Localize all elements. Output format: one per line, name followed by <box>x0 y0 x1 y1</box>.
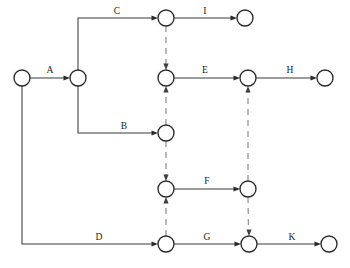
edge-d-arrowhead <box>152 241 159 246</box>
dummy-b-to-f[interactable] <box>163 141 168 181</box>
edge-h-arrowhead <box>311 75 318 80</box>
edge-b-line <box>78 86 156 133</box>
node-after-e[interactable] <box>240 70 256 86</box>
dummy-f-to-g-line <box>248 197 249 234</box>
node-after-c[interactable] <box>158 10 174 26</box>
edge-f[interactable] <box>174 186 240 191</box>
edge-h[interactable] <box>256 75 317 80</box>
edge-i-arrowhead <box>231 15 238 20</box>
dummy-f-to-e-arrowhead <box>245 86 250 93</box>
network-diagram: A C I E H B F D G K <box>0 0 350 268</box>
edge-label-a: A <box>46 65 53 75</box>
node-after-a[interactable] <box>70 70 86 86</box>
edge-e[interactable] <box>174 75 240 80</box>
dummy-d-to-f[interactable] <box>163 197 168 236</box>
dummy-b-to-e[interactable] <box>163 86 168 125</box>
network-canvas: A C I E H B F D G K <box>0 0 350 268</box>
edge-k-arrowhead <box>315 241 322 246</box>
dummy-c-to-e-arrowhead <box>163 64 168 71</box>
edge-g-arrowhead <box>235 241 242 246</box>
edge-d-line <box>22 86 156 244</box>
edge-label-c: C <box>114 6 121 16</box>
edge-f-arrowhead <box>234 186 241 191</box>
edge-b-arrowhead <box>152 130 159 135</box>
edge-c-arrowhead <box>152 15 159 20</box>
dummy-f-to-g[interactable] <box>246 197 251 236</box>
dummy-b-to-f-arrowhead <box>163 175 168 182</box>
node-after-g[interactable] <box>241 236 257 252</box>
dummy-c-to-e[interactable] <box>163 26 168 70</box>
node-after-f[interactable] <box>240 181 256 197</box>
node-start-of-e[interactable] <box>158 70 174 86</box>
node-after-i[interactable] <box>237 10 253 26</box>
dummy-b-to-e-arrowhead <box>163 86 168 93</box>
node-after-k[interactable] <box>321 236 337 252</box>
node-after-d[interactable] <box>158 236 174 252</box>
edge-b[interactable] <box>78 86 158 136</box>
start-node[interactable] <box>14 70 30 86</box>
edge-d[interactable] <box>22 86 158 247</box>
edge-a[interactable] <box>30 75 70 80</box>
node-after-h[interactable] <box>317 70 333 86</box>
edge-c-line <box>78 18 156 70</box>
node-after-b[interactable] <box>158 125 174 141</box>
edge-label-k: K <box>288 232 295 242</box>
dummy-d-to-f-arrowhead <box>163 197 168 204</box>
edge-label-d: D <box>95 232 102 242</box>
edge-label-e: E <box>202 65 208 75</box>
edge-label-h: H <box>286 65 293 75</box>
dummy-f-to-e[interactable] <box>245 86 250 181</box>
node-start-of-f[interactable] <box>158 181 174 197</box>
edge-c[interactable] <box>78 15 158 70</box>
edge-label-b: B <box>121 121 128 131</box>
edge-label-i: I <box>203 6 206 16</box>
edge-label-f: F <box>204 176 209 186</box>
edge-a-arrowhead <box>64 75 71 80</box>
dummy-f-to-g-arrowhead <box>246 230 251 237</box>
edge-label-g: G <box>203 232 210 242</box>
edge-e-arrowhead <box>234 75 241 80</box>
